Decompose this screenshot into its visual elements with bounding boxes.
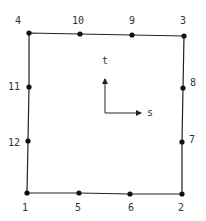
node-8-label: 8 — [190, 77, 196, 88]
node-1-dot-icon — [24, 190, 29, 195]
node-1-label: 1 — [22, 202, 28, 213]
node-6-dot-icon — [127, 191, 132, 196]
s-axis-label: s — [147, 107, 153, 118]
node-11-dot-icon — [26, 84, 31, 89]
node-2-dot-icon — [179, 191, 184, 196]
node-5-dot-icon — [76, 190, 81, 195]
node-3-dot-icon — [181, 33, 186, 38]
t-axis-label: t — [102, 55, 108, 66]
node-5-label: 5 — [75, 202, 81, 213]
node-3-label: 3 — [180, 15, 186, 26]
nodes: 123456789101112 — [8, 15, 196, 213]
node-4-dot-icon — [26, 30, 31, 35]
node-10-label: 10 — [72, 15, 84, 26]
local-axes: s t — [102, 55, 153, 118]
node-2-label: 2 — [178, 202, 184, 213]
node-8-dot-icon — [180, 85, 185, 90]
node-12-dot-icon — [25, 138, 30, 143]
node-10-dot-icon — [77, 31, 82, 36]
node-4-label: 4 — [15, 15, 21, 26]
node-7-dot-icon — [179, 139, 184, 144]
node-9-dot-icon — [129, 32, 134, 37]
node-11-label: 11 — [8, 81, 20, 92]
node-7-label: 7 — [189, 134, 195, 145]
element-diagram: s t 123456789101112 — [0, 0, 206, 221]
node-6-label: 6 — [128, 202, 134, 213]
node-9-label: 9 — [129, 15, 135, 26]
node-12-label: 12 — [8, 137, 20, 148]
